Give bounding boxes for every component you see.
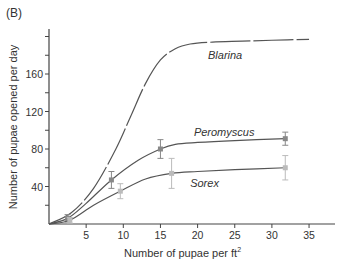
series-label-peromyscus: Peromyscus xyxy=(194,126,255,138)
series-layer xyxy=(49,39,309,224)
axes: 51015202530354080120160 xyxy=(25,29,335,241)
y-axis-label-text: Number of pupae opened per day xyxy=(7,45,19,210)
sorex-curve xyxy=(49,168,285,224)
x-axis-label-superscript: 2 xyxy=(237,246,241,253)
y-tick-label: 120 xyxy=(25,106,43,118)
x-axis-label-text: Number of pupae per ft xyxy=(124,247,237,259)
series-label-sorex: Sorex xyxy=(190,177,219,189)
y-tick-label: 160 xyxy=(25,68,43,80)
x-tick-label: 25 xyxy=(229,229,241,241)
data-point-marker xyxy=(109,177,114,182)
line-chart: 51015202530354080120160 BlarinaPeromyscu… xyxy=(0,0,341,269)
series-sorex xyxy=(49,156,288,224)
series-blarina xyxy=(49,39,309,224)
data-point-marker xyxy=(118,189,123,194)
series-label-blarina: Blarina xyxy=(208,49,242,61)
data-point-marker xyxy=(169,171,174,176)
x-axis-label: Number of pupae per ft2 xyxy=(124,246,241,259)
y-tick-label: 40 xyxy=(31,181,43,193)
blarina-curve xyxy=(49,39,309,224)
x-tick-label: 35 xyxy=(303,229,315,241)
x-tick-label: 30 xyxy=(266,229,278,241)
x-tick-label: 5 xyxy=(83,229,89,241)
x-tick-label: 20 xyxy=(192,229,204,241)
x-tick-label: 10 xyxy=(117,229,129,241)
x-tick-label: 15 xyxy=(155,229,167,241)
y-tick-label: 80 xyxy=(31,143,43,155)
data-point-marker xyxy=(67,218,72,223)
series-labels: BlarinaPeromyscusSorex xyxy=(190,49,255,189)
data-point-marker xyxy=(158,147,163,152)
data-point-marker xyxy=(283,165,288,170)
data-point-marker xyxy=(283,136,288,141)
